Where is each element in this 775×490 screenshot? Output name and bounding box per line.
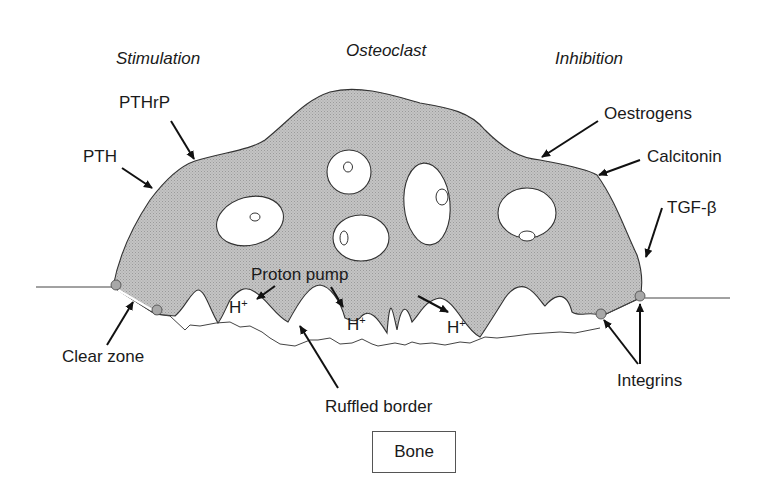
integrin-left-outer [111, 280, 121, 290]
integrins-arrow-1 [604, 320, 638, 364]
tgf-beta-arrow [646, 208, 662, 257]
bone-label: Bone [394, 442, 434, 462]
oestrogens-label: Oestrogens [604, 105, 692, 122]
osteoclast-header: Osteoclast [346, 42, 426, 59]
integrin-right-outer [635, 291, 645, 301]
hydrogen-ion-2: H+ [347, 315, 366, 333]
ruffled-border-arrow [300, 326, 338, 388]
tgf-beta-label: TGF-β [667, 199, 716, 216]
ruffled-border-label: Ruffled border [325, 398, 432, 415]
clear-zone-label: Clear zone [62, 348, 144, 365]
integrin-right-inner [596, 309, 606, 319]
hydrogen-ion-1: H+ [229, 298, 248, 316]
calcitonin-label: Calcitonin [647, 148, 722, 165]
proton-pump-label: Proton pump [251, 266, 348, 283]
pthrp-arrow [171, 121, 194, 159]
pth-arrow [122, 168, 152, 188]
osteoclast-cell-body [113, 89, 642, 337]
integrins-label: Integrins [617, 372, 682, 389]
integrin-left-inner [152, 305, 162, 315]
calcitonin-arrow [599, 160, 640, 175]
clear-zone-arrow [107, 302, 133, 345]
nucleus-4 [333, 215, 389, 261]
oestrogens-arrow [542, 121, 598, 157]
pth-label: PTH [83, 148, 117, 165]
pthrp-label: PTHrP [119, 94, 170, 111]
hydrogen-ion-3: H+ [447, 318, 466, 336]
inhibition-header: Inhibition [555, 50, 623, 67]
nucleus-2 [327, 150, 371, 194]
bone-label-box: Bone [372, 431, 456, 473]
stimulation-header: Stimulation [116, 50, 200, 67]
osteoclast-diagram [0, 0, 775, 490]
